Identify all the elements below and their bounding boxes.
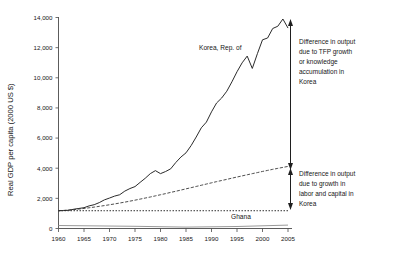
y-tick-label: 10,000 <box>34 74 53 81</box>
factor-annotation-line-1: Difference in output <box>299 170 355 178</box>
korea-series-label: Korea, Rep. of <box>199 44 242 52</box>
y-axis-label-text: Real GDP per capita (2000 US $) <box>6 83 15 196</box>
tfp-annotation-line-1: Difference in output <box>299 38 355 46</box>
chart-screenshot: Real GDP per capita (2000 US $) 14,00012… <box>0 0 395 264</box>
x-tick-label: 1990 <box>205 235 219 242</box>
y-tick-label: 6,000 <box>37 134 53 141</box>
tfp-annotation-line-4: accumulation in <box>299 68 345 75</box>
y-tick-label: 2,000 <box>37 195 53 202</box>
x-tick-label: 2005 <box>281 235 295 242</box>
factor-annotation-line-4: Korea <box>299 200 317 207</box>
x-tick-label: 1970 <box>103 235 117 242</box>
y-tick-label: 8,000 <box>37 104 53 111</box>
x-tick-label: 1985 <box>179 235 193 242</box>
y-tick-label: 14,000 <box>34 14 53 21</box>
x-tick-label: 1975 <box>128 235 142 242</box>
ghana-series-label: Ghana <box>231 213 251 220</box>
y-tick-label: 0 <box>49 225 53 232</box>
factor-annotation-line-2: due to growth in <box>299 180 346 188</box>
x-tick-label: 1965 <box>77 235 91 242</box>
x-tick-label: 1980 <box>154 235 168 242</box>
x-tick-label: 1960 <box>52 235 66 242</box>
tfp-annotation-line-2: due to TFP growth <box>299 48 353 56</box>
tfp-annotation-line-3: or knowledge <box>299 58 338 66</box>
y-axis-label: Real GDP per capita (2000 US $) <box>6 83 15 196</box>
x-tick-label: 1995 <box>230 235 244 242</box>
y-tick-label: 12,000 <box>34 44 53 51</box>
y-tick-label: 4,000 <box>37 165 53 172</box>
factor-annotation-line-3: labor and capital in <box>299 190 354 198</box>
x-tick-label: 2000 <box>256 235 270 242</box>
tfp-annotation-line-5: Korea <box>299 78 317 85</box>
gdp-per-capita-chart: Real GDP per capita (2000 US $) 14,00012… <box>0 0 395 264</box>
